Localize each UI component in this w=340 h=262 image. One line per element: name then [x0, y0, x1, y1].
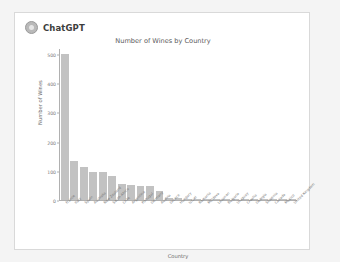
x-tick-label: Greece [165, 201, 175, 249]
x-tick-label: Uruguay [231, 201, 241, 249]
brand-header: ChatGPT [25, 21, 85, 34]
x-tick-label: South Africa [108, 201, 118, 249]
x-axis-tick-labels: FranceItalySpainAustraliaNew ZealandSout… [60, 201, 298, 249]
x-axis-title: Country [59, 253, 297, 259]
bar [80, 167, 88, 200]
x-tick-label: Hungary [174, 201, 184, 249]
x-tick-label: Spain [79, 201, 89, 249]
bar [61, 54, 69, 200]
x-tick-label: Lebanon [212, 201, 222, 249]
x-tick-label: Portugal [136, 201, 146, 249]
chatgpt-logo-icon [25, 21, 38, 34]
bar-series [60, 49, 297, 200]
x-tick-label: Bulgaria [222, 201, 232, 249]
x-tick-label: Mexico [279, 201, 289, 249]
plot-area: 0100200300400500 [59, 49, 297, 201]
x-tick-label: Canada [269, 201, 279, 249]
y-tick-mark [57, 142, 59, 143]
y-tick-mark [57, 171, 59, 172]
y-tick-mark [57, 113, 59, 114]
x-tick-label: Romania [193, 201, 203, 249]
x-tick-label: New Zealand [98, 201, 108, 249]
wines-by-country-chart: Number of Wines by Country Number of Win… [23, 35, 303, 245]
brand-name: ChatGPT [43, 23, 85, 33]
x-tick-label: Georgia [250, 201, 260, 249]
chat-response-card: ChatGPT Number of Wines by Country Numbe… [14, 12, 310, 250]
chart-title: Number of Wines by Country [23, 37, 303, 45]
x-tick-label: Australia [89, 201, 99, 249]
x-tick-label: Israel [184, 201, 194, 249]
x-tick-label: France [60, 201, 70, 249]
y-tick-mark [57, 201, 59, 202]
x-tick-label: Croatia [241, 201, 251, 249]
x-tick-label: Austria [155, 201, 165, 249]
x-tick-label: Slovenia [260, 201, 270, 249]
x-tick-label: Chile [117, 201, 127, 249]
x-tick-label: Argentina [127, 201, 137, 249]
x-tick-label: Italy [70, 201, 80, 249]
y-tick-mark [57, 54, 59, 55]
y-axis-title: Number of Wines [37, 80, 43, 125]
y-tick-mark [57, 84, 59, 85]
x-tick-label: Germany [146, 201, 156, 249]
x-tick-label: United Kingdom [288, 201, 298, 249]
x-tick-label: Moldova [203, 201, 213, 249]
